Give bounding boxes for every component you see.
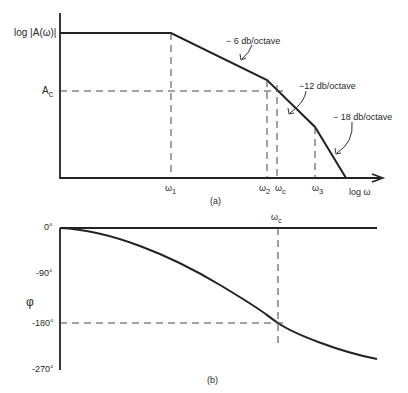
magnitude-y-label: log |A(ω)| xyxy=(14,28,56,38)
magnitude-curve xyxy=(60,33,346,178)
panel-b-caption: (b) xyxy=(207,376,218,385)
tick-minus180deg: -180° xyxy=(32,319,54,328)
tick-0deg: 0° xyxy=(44,223,53,232)
ac-label: Ac xyxy=(42,86,53,99)
slope1-arrowhead-icon xyxy=(240,54,246,60)
bode-diagram: log |A(ω)| Ac − 6 db/octave −12 db/octav… xyxy=(0,0,408,393)
wc-tick-label: ωc xyxy=(275,184,286,195)
slope1-annotation: − 6 db/octave xyxy=(226,37,280,46)
wc-phase-label: ωc xyxy=(271,213,282,224)
tick-minus270deg: -270° xyxy=(32,365,54,374)
tick-minus90deg: -90° xyxy=(36,269,53,278)
slope2-annotation: −12 db/octave xyxy=(299,82,356,91)
x-axis-label: log ω xyxy=(349,188,371,197)
w1-tick-label: ω1 xyxy=(165,184,176,195)
slope3-leader xyxy=(337,122,352,153)
w2-tick-label: ω2 xyxy=(259,184,270,195)
diagram-lines xyxy=(0,0,408,393)
phase-y-label: φ xyxy=(26,296,34,308)
slope3-annotation: − 18 db/octave xyxy=(333,113,392,122)
w3-tick-label: ω3 xyxy=(312,184,323,195)
phase-curve xyxy=(60,228,377,359)
panel-a-caption: (a) xyxy=(210,197,221,206)
slope1-leader xyxy=(242,45,252,59)
